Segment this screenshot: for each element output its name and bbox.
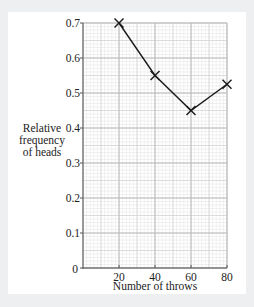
y-tick-label: 0 <box>72 263 78 275</box>
y-axis-title: Relativefrequencyof heads <box>19 122 65 158</box>
y-tick-label: 0.5 <box>66 87 81 99</box>
x-tick-label: 80 <box>221 271 233 283</box>
line-chart: 00.10.20.30.40.50.60.7 20406080 Number o… <box>0 0 254 307</box>
y-axis-title-line: Relative <box>23 122 61 134</box>
y-tick-label: 0.7 <box>66 17 81 29</box>
y-axis-ticks: 00.10.20.30.40.50.60.7 <box>66 17 83 275</box>
y-tick-label: 0.3 <box>66 157 81 169</box>
y-tick-label: 0.6 <box>66 52 81 64</box>
y-axis-title-line: of heads <box>23 146 62 158</box>
y-tick-label: 0.2 <box>66 192 81 204</box>
x-axis-title: Number of throws <box>113 280 198 292</box>
y-tick-label: 0.1 <box>66 227 81 239</box>
y-tick-label: 0.4 <box>66 122 81 134</box>
